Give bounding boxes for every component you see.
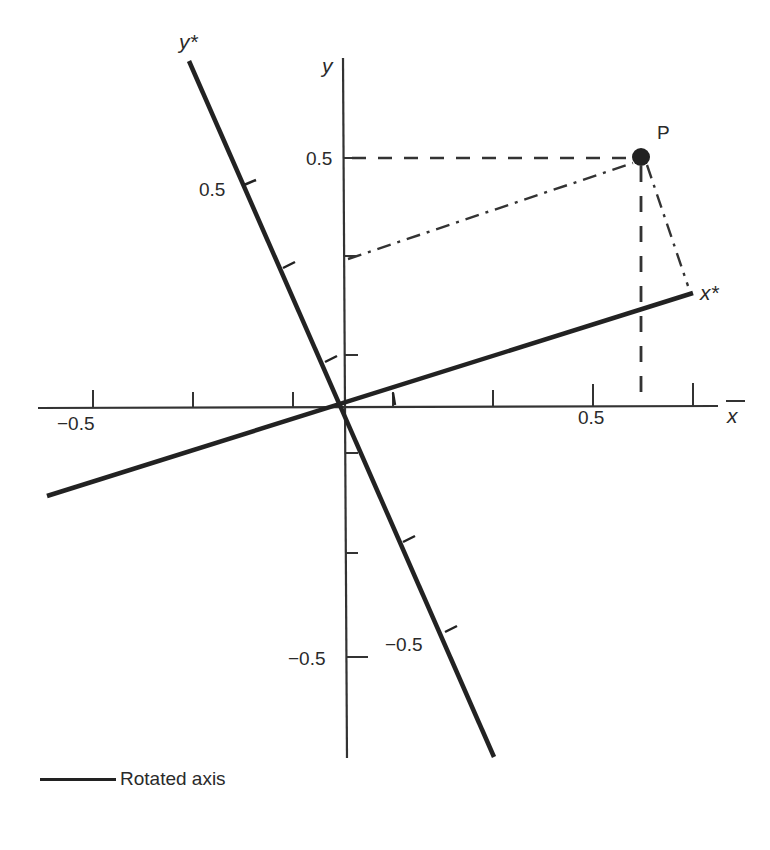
legend-label: Rotated axis	[120, 768, 226, 790]
tick-x-pos: 0.5	[578, 407, 604, 428]
projection-dashdot	[348, 163, 688, 286]
label-y: y	[320, 54, 334, 77]
label-x: x	[726, 404, 739, 427]
point-p	[632, 148, 650, 166]
rotation-diagram: P x y x* y* −0.5 0.5 0.5 −0.5 0.5 −0.5	[0, 0, 770, 850]
label-x-star: x*	[699, 281, 720, 304]
legend: Rotated axis	[40, 768, 226, 790]
tick-ystar-pos: 0.5	[199, 179, 225, 200]
tick-y-neg: −0.5	[288, 648, 326, 669]
x-star-axis	[47, 293, 693, 496]
tick-x-neg: −0.5	[57, 413, 95, 434]
legend-line-swatch	[40, 778, 116, 781]
label-p: P	[657, 122, 670, 143]
label-y-star: y*	[177, 30, 199, 53]
y-star-axis	[189, 61, 494, 757]
tick-ystar-neg: −0.5	[385, 634, 423, 655]
tick-y-pos: 0.5	[306, 148, 332, 169]
